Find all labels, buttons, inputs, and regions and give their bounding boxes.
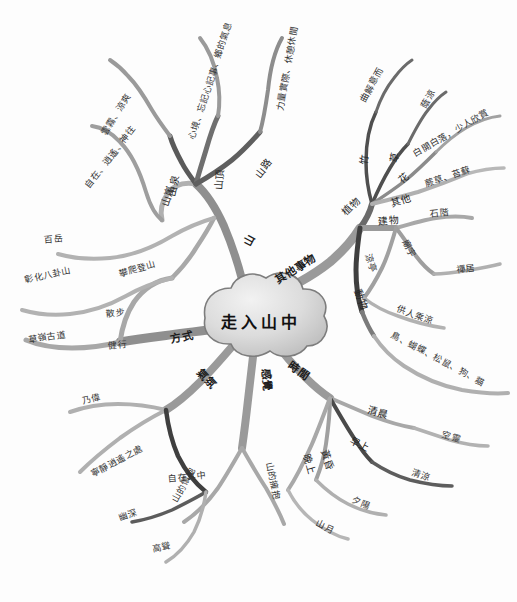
branch-path-yunwu: [110, 60, 170, 136]
branch-path-liliang: [260, 38, 282, 132]
center-node-label: 走入山中: [206, 309, 316, 333]
branch-path-xiyang: [316, 480, 386, 515]
branch-path-naiwei: [70, 404, 166, 412]
branch-path-yinliang: [408, 92, 446, 144]
branch-path-miaoyu: [396, 228, 434, 274]
branch-path-kongling: [414, 428, 488, 446]
branch-path-quxie: [376, 60, 412, 112]
branch-path-zhu: [366, 112, 376, 204]
branch-path-baguashan: [22, 278, 172, 315]
branch-path-qifen: [166, 342, 236, 410]
branch-path-zhiwu: [360, 204, 372, 228]
branch-path-chanju: [434, 264, 500, 274]
branch-path-dongwu2: [362, 312, 374, 336]
branch-path-dongwulist: [374, 336, 508, 393]
branch-path-wanshang: [288, 398, 330, 490]
branch-path-qitazhiwu: [372, 174, 466, 204]
branch-path-shanquan: [170, 136, 196, 184]
mindmap-canvas: 走入山中 山 山嵐 自在、逍遙、神往 山泉 雲霧、涼爽 山頂 心境、忘記心記事、…: [0, 0, 517, 602]
branch-path-shijie: [396, 217, 472, 229]
branch-path-dongwu: [356, 228, 362, 312]
branch-path-jianxing: [26, 340, 120, 348]
branch-path-chengliang: [364, 298, 444, 328]
branch-path-qingliang: [372, 462, 452, 486]
branch-path-huaibao: [184, 448, 242, 522]
branch-path-juecao: [466, 168, 504, 174]
branch-path-ganjue: [242, 348, 254, 448]
mindmap-branches: [0, 0, 517, 602]
branch-path-ningjing: [80, 410, 166, 472]
branch-path-zizai: [166, 410, 206, 492]
branch-path-ziyou: [92, 126, 162, 220]
branch-path-huakai: [436, 116, 500, 152]
branch-path-youshen: [132, 492, 206, 522]
branch-path-huanghun: [316, 398, 330, 480]
branch-path-shanlan: [161, 183, 196, 220]
branch-path-fangshi: [120, 330, 208, 342]
branch-path-xinjing: [200, 38, 219, 116]
branch-path-yongbao: [242, 448, 284, 524]
branch-path-liangting: [364, 228, 396, 298]
